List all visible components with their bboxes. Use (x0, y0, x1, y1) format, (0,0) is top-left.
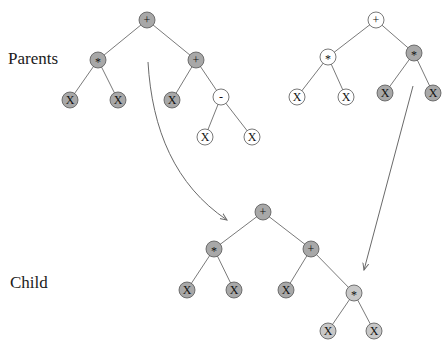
tree-node-p2-x4: X (425, 85, 441, 101)
tree-node-p1-x5: X (244, 129, 260, 145)
tree-node-c-root: + (255, 204, 271, 220)
tree-node-c-x1: X (179, 282, 195, 298)
node-symbol: + (260, 205, 267, 219)
arrow-parent2-to-child (364, 86, 413, 270)
node-symbol: * (211, 244, 217, 258)
tree-node-p1-root: + (139, 12, 155, 28)
tree-edge (98, 20, 147, 60)
node-symbol: + (373, 13, 380, 27)
tree-node-p2-x2: X (338, 89, 354, 105)
tree-node-p2-x3: X (377, 85, 393, 101)
tree-node-p1-x4: X (197, 129, 213, 145)
tree-node-c-x3: X (278, 282, 294, 298)
tree-node-p2-mul2: * (406, 45, 422, 62)
node-symbol: * (95, 55, 101, 69)
tree-node-c-x4: X (320, 323, 336, 339)
node-symbol: X (201, 130, 210, 144)
tree-node-c-mul2: * (346, 285, 362, 302)
tree-node-p2-root: + (368, 12, 384, 28)
node-symbol: X (381, 86, 390, 100)
tree-edge (328, 20, 376, 57)
tree-edge (214, 212, 263, 249)
arrows-layer (148, 62, 413, 270)
node-symbol: X (248, 130, 257, 144)
node-symbol: X (66, 93, 75, 107)
node-symbol: * (411, 48, 417, 62)
node-symbol: X (342, 90, 351, 104)
tree-node-p1-x3: X (164, 92, 180, 108)
node-symbol: X (429, 86, 438, 100)
tree-node-p1-sub: - (213, 89, 229, 105)
node-symbol: + (193, 53, 200, 67)
node-symbol: X (324, 324, 333, 338)
tree-node-c-add: + (303, 241, 319, 257)
node-symbol: X (282, 283, 291, 297)
crossover-diagram: +*+XXX-XX+**XXXX+*+XXX*XX (0, 0, 447, 346)
nodes-layer: +*+XXX-XX+**XXXX+*+XXX*XX (62, 12, 441, 339)
edges-layer (70, 20, 433, 331)
node-symbol: X (183, 283, 192, 297)
node-symbol: X (370, 324, 379, 338)
node-symbol: X (114, 93, 123, 107)
tree-edge (263, 212, 311, 249)
tree-edge (147, 20, 196, 60)
tree-node-p1-x1: X (62, 92, 78, 108)
node-symbol: + (308, 242, 315, 256)
arrow-parent1-to-child (148, 62, 227, 220)
tree-node-c-x5: X (366, 323, 382, 339)
node-symbol: * (351, 288, 357, 302)
tree-node-p1-add: + (188, 52, 204, 68)
node-symbol: X (168, 93, 177, 107)
node-symbol: - (219, 90, 223, 104)
tree-node-p1-x2: X (110, 92, 126, 108)
tree-node-p1-mul: * (90, 52, 106, 69)
tree-node-p2-x1: X (289, 89, 305, 105)
node-symbol: X (293, 90, 302, 104)
node-symbol: * (325, 52, 331, 66)
tree-node-c-x2: X (226, 282, 242, 298)
node-symbol: + (144, 13, 151, 27)
tree-node-c-mul: * (206, 241, 222, 258)
node-symbol: X (230, 283, 239, 297)
tree-edge (311, 249, 354, 293)
